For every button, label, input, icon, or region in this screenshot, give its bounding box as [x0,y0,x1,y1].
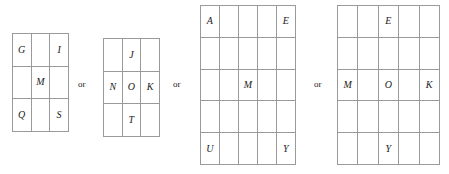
grid-cell [258,70,277,102]
grid-cell [220,70,239,102]
grid-cell [239,101,258,133]
grid-cell: M [239,70,258,102]
grid-cell [220,101,239,133]
grid-cell: E [277,6,296,38]
separator-or-1: or [78,80,86,89]
grid-cell: I [50,34,69,67]
letter-grid-4: EMOKY [337,5,440,165]
grid-cell [104,104,123,137]
separator-or-3: or [314,80,322,89]
letter-grid-2: JNOKT [103,38,160,137]
grid-cell: O [379,70,399,102]
grid-cell [258,101,277,133]
grid-cell [201,38,220,70]
grid-cell [358,101,378,133]
grid-cell [239,38,258,70]
grid-cell [258,38,277,70]
grid-cell [201,70,220,102]
grid-cell [220,6,239,38]
grid-cell [358,38,378,70]
grid-cell: E [379,6,399,38]
grid-cell [50,67,69,100]
grid-cell: N [104,72,123,105]
grid-cell [379,38,399,70]
grid-cell [338,38,358,70]
grid-cell [220,133,239,165]
grid-cell [277,70,296,102]
grid-cell [399,101,419,133]
grid-cell [258,6,277,38]
grid-cell [338,6,358,38]
grid-cell [420,101,440,133]
grid-cell [420,6,440,38]
grid-cell: K [141,72,160,105]
grid-cell [32,99,51,132]
grid-cell [13,67,32,100]
grid-cell [258,133,277,165]
grid-cell: A [201,6,220,38]
grid-cell: J [123,39,142,72]
grid-cell: K [420,70,440,102]
grid-cell [399,38,419,70]
grid-cell [379,101,399,133]
grid-cell: U [201,133,220,165]
grid-cell [338,133,358,165]
grid-cell: M [32,67,51,100]
grid-cell [358,70,378,102]
grid-cell [420,38,440,70]
separator-or-2: or [173,80,181,89]
grid-cell [141,104,160,137]
grid-cell [201,101,220,133]
grid-cell: G [13,34,32,67]
grid-cell [399,6,419,38]
grid-cell [358,133,378,165]
grid-cell: S [50,99,69,132]
grid-cell [104,39,123,72]
grid-cell [399,133,419,165]
letter-grid-1: GIMQS [12,33,69,132]
grid-cell [220,38,239,70]
grid-cell [239,133,258,165]
grid-cell [277,38,296,70]
grid-cell: Q [13,99,32,132]
grid-cell: T [123,104,142,137]
grid-cell [358,6,378,38]
grid-cell [399,70,419,102]
letter-grid-3: AEMUY [200,5,296,165]
grid-cell: M [338,70,358,102]
grid-cell: Y [379,133,399,165]
grid-cell [239,6,258,38]
grid-cell [420,133,440,165]
figure-canvas: GIMQS or JNOKT or AEMUY or EMOKY [0,0,449,174]
grid-cell: Y [277,133,296,165]
grid-cell [141,39,160,72]
grid-cell [277,101,296,133]
grid-cell [32,34,51,67]
grid-cell [338,101,358,133]
grid-cell: O [123,72,142,105]
